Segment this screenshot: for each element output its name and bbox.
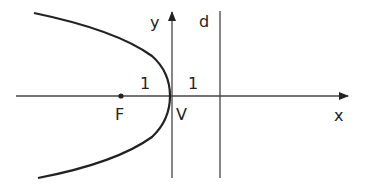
directrix-label: d <box>199 12 209 31</box>
directrix-distance-label: 1 <box>188 74 198 93</box>
focus-point <box>118 93 123 98</box>
y-axis-label: y <box>150 13 159 32</box>
focus-distance-label: 1 <box>140 74 150 93</box>
x-axis-label: x <box>334 106 343 125</box>
focus-label: F <box>115 105 124 124</box>
parabola-diagram: y d x F V 1 1 <box>0 0 367 189</box>
vertex-label: V <box>176 105 187 124</box>
